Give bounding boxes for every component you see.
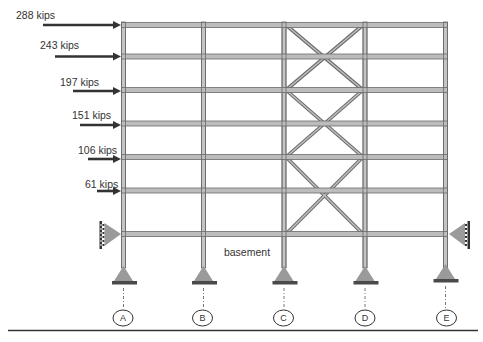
support-triangle-icon bbox=[449, 223, 465, 246]
load-arrows: 288 kips 243 kips 197 kips 151 kips 106 … bbox=[16, 9, 121, 195]
lateral-support-left bbox=[100, 221, 122, 249]
load-arrow-243: 243 kips bbox=[40, 39, 121, 61]
load-arrow-61: 61 kips bbox=[85, 178, 121, 195]
grid-bubble-d: D bbox=[355, 310, 375, 326]
svg-text:A: A bbox=[120, 313, 126, 323]
support-triangle-icon bbox=[356, 266, 375, 281]
svg-text:C: C bbox=[280, 313, 287, 323]
lateral-support-right bbox=[449, 221, 470, 249]
svg-text:B: B bbox=[199, 313, 205, 323]
floor-beam bbox=[122, 54, 448, 59]
basement-label: basement bbox=[224, 246, 270, 258]
floor-beam bbox=[122, 88, 448, 93]
load-label: 243 kips bbox=[40, 39, 79, 51]
frame-diagram: 288 kips 243 kips 197 kips 151 kips 106 … bbox=[0, 0, 483, 342]
svg-text:D: D bbox=[362, 313, 369, 323]
load-label: 106 kips bbox=[78, 144, 117, 156]
floor-beam bbox=[122, 121, 448, 126]
grid-bubbles: A B C D E bbox=[113, 310, 457, 326]
arrow-head-icon bbox=[113, 155, 121, 163]
support-triangle-icon bbox=[105, 223, 122, 246]
svg-text:E: E bbox=[443, 313, 449, 323]
pin-support-a bbox=[112, 266, 137, 285]
load-label: 288 kips bbox=[16, 9, 55, 21]
grid-bubble-a: A bbox=[113, 310, 133, 326]
load-label: 197 kips bbox=[60, 76, 99, 88]
grid-leaders bbox=[124, 286, 446, 308]
grid-bubble-c: C bbox=[274, 310, 294, 326]
arrow-head-icon bbox=[113, 53, 121, 61]
pin-support-e bbox=[434, 264, 459, 283]
ground-beam bbox=[122, 232, 448, 237]
load-arrow-106: 106 kips bbox=[78, 144, 121, 163]
arrow-head-icon bbox=[113, 121, 121, 129]
load-arrow-288: 288 kips bbox=[16, 9, 121, 29]
load-arrow-197: 197 kips bbox=[60, 76, 121, 95]
grid-bubble-e: E bbox=[437, 310, 457, 326]
roof-beam bbox=[122, 23, 448, 28]
floor-beam bbox=[122, 188, 448, 193]
pin-support-b bbox=[192, 266, 217, 285]
support-triangle-icon bbox=[114, 266, 133, 281]
pin-support-d bbox=[354, 266, 379, 285]
support-triangle-icon bbox=[275, 266, 294, 281]
grid-bubble-b: B bbox=[193, 310, 213, 326]
load-arrow-151: 151 kips bbox=[72, 109, 121, 129]
floor-beam bbox=[122, 155, 448, 160]
pin-support-c bbox=[273, 266, 298, 285]
support-triangle-icon bbox=[436, 264, 455, 279]
arrow-head-icon bbox=[113, 87, 121, 95]
arrow-head-icon bbox=[113, 21, 121, 29]
load-label: 151 kips bbox=[72, 109, 111, 121]
support-triangle-icon bbox=[194, 266, 213, 281]
